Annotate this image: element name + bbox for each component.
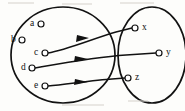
- node-label-a: a: [30, 19, 34, 29]
- mapping-diagram: a b c d e x y z: [0, 0, 185, 111]
- scan-artifact: [62, 3, 92, 5]
- scan-artifact: [120, 2, 154, 4]
- node-circle-d: [29, 65, 35, 71]
- node-circle-e: [42, 83, 48, 89]
- scan-artifact: [62, 104, 104, 106]
- arrowhead-e-to-z: [74, 79, 88, 85]
- node-circle-c: [42, 50, 48, 56]
- scan-artifact: [8, 2, 34, 4]
- node-circle-y: [156, 50, 162, 56]
- node-circle-b: [19, 37, 25, 43]
- left-set-ellipse: [11, 7, 115, 103]
- edge-d-to-y: [35, 53, 156, 68]
- diagram-canvas: [0, 0, 185, 111]
- node-label-b: b: [11, 35, 16, 45]
- node-label-z: z: [135, 73, 139, 83]
- scan-artifact: [128, 100, 148, 102]
- node-circle-z: [125, 75, 131, 81]
- node-circle-x: [132, 25, 138, 31]
- node-label-y: y: [166, 48, 171, 58]
- arrowhead-d-to-y: [74, 56, 88, 62]
- node-circle-a: [38, 21, 44, 27]
- node-label-x: x: [142, 23, 147, 33]
- node-label-e: e: [34, 81, 38, 91]
- node-label-d: d: [21, 63, 26, 73]
- node-label-c: c: [34, 48, 38, 58]
